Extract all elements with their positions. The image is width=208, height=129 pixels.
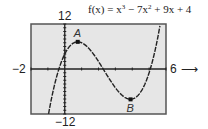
point-b-label: B (127, 102, 134, 114)
x-min-label: −2 (12, 62, 26, 76)
point-a-label: A (73, 27, 81, 39)
arrow-icon: ⟶ (181, 62, 198, 76)
x-max-label: 6 (170, 62, 177, 76)
point-a-marker (76, 40, 80, 44)
y-min-label: −12 (55, 115, 76, 129)
graph-window: f(x) = x3 − 7x2 + 9x + 4 AB 12 −12 −2 6 … (0, 0, 208, 129)
point-b-marker (129, 97, 133, 101)
function-title: f(x) = x3 − 7x2 + 9x + 4 (88, 3, 192, 16)
y-max-label: 12 (58, 9, 72, 23)
